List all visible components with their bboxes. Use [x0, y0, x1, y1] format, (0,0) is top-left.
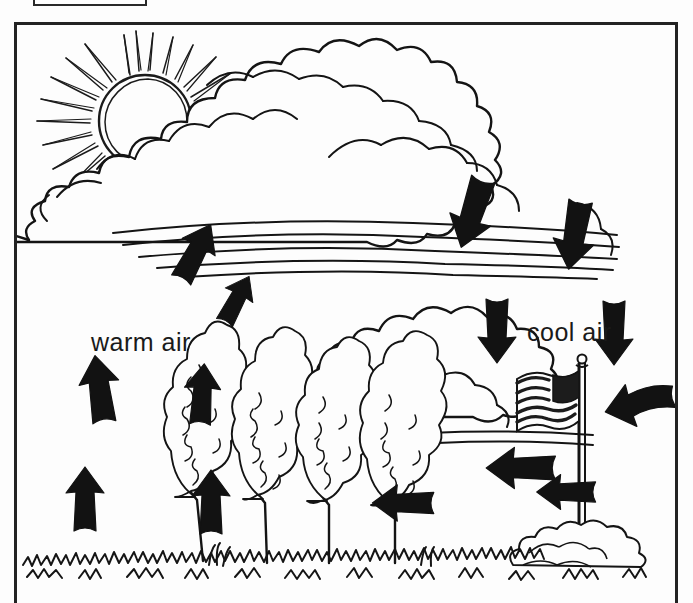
- arrow-wind-1: [600, 374, 678, 433]
- cool-air-label: cool air: [527, 318, 612, 347]
- diagram-artwork: [17, 25, 678, 603]
- diagram-canvas: warm air cool air: [17, 25, 675, 603]
- diagram-frame: warm air cool air: [14, 22, 678, 603]
- title-box: [33, 0, 147, 6]
- warm-air-label: warm air: [91, 328, 191, 357]
- arrow-cloud-downdraft-2: [548, 198, 600, 273]
- flag-icon: [517, 371, 579, 431]
- diagram-page: warm air cool air: [0, 0, 693, 603]
- arrow-warm-1: [66, 467, 104, 531]
- arrow-wind-2: [486, 447, 555, 488]
- bush: [510, 520, 645, 567]
- arrow-warm-3: [75, 353, 124, 425]
